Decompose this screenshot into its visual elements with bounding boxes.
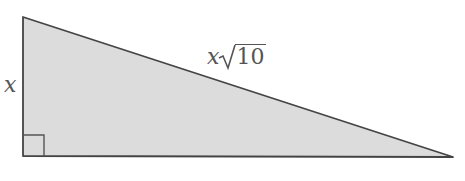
hypotenuse-label: x 10 [207, 44, 266, 70]
radicand: 10 [235, 44, 266, 68]
triangle-figure [0, 0, 465, 181]
right-triangle [23, 17, 453, 157]
radical-sign-icon [218, 44, 236, 70]
leg-label: x [4, 74, 16, 96]
